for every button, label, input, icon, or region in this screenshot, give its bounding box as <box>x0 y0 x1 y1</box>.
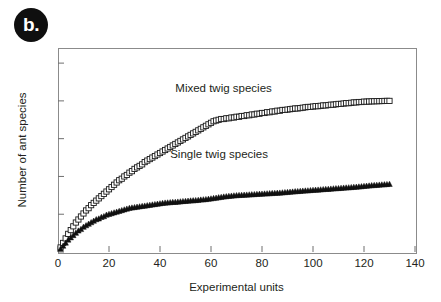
series-annotation: Single twig species <box>170 148 268 160</box>
series-annotation: Mixed twig species <box>175 82 272 94</box>
chart-canvas: Mixed twig speciesSingle twig species <box>0 0 441 302</box>
series-open-square <box>58 98 392 250</box>
figure-panel: b. Number of ant species Experimental un… <box>0 0 441 302</box>
data-series-layer <box>58 98 392 251</box>
